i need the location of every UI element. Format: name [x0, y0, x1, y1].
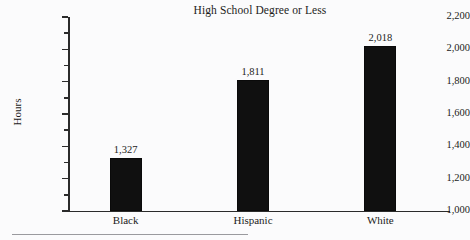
y-axis-line [68, 17, 70, 212]
y-tick-major [62, 49, 68, 51]
bar-hispanic [237, 80, 269, 211]
y-tick-minor [64, 129, 68, 131]
bar-chart-figure: High School Degree or Less Hours 1,0001,… [0, 0, 470, 240]
y-tick-major [62, 146, 68, 148]
y-tick-label: 1,400 [414, 139, 470, 150]
y-tick-major [62, 210, 68, 212]
y-tick-minor [64, 65, 68, 67]
category-label-white: White [340, 214, 420, 226]
y-tick-minor [64, 162, 68, 164]
y-tick-label: 2,000 [414, 42, 470, 53]
bar-value-label: 1,327 [96, 144, 156, 155]
bar-value-label: 1,811 [223, 66, 283, 77]
y-tick-label: 1,800 [414, 75, 470, 86]
y-tick-label: 1,000 [414, 204, 470, 215]
category-label-black: Black [86, 214, 166, 226]
y-tick-minor [64, 194, 68, 196]
y-tick-minor [64, 32, 68, 34]
footer-rule [12, 234, 248, 235]
y-tick-label: 2,200 [414, 10, 470, 21]
category-label-hispanic: Hispanic [213, 214, 293, 226]
chart-title: High School Degree or Less [150, 4, 370, 16]
y-axis-label: Hours [11, 82, 23, 142]
y-tick-minor [64, 97, 68, 99]
y-tick-label: 1,600 [414, 107, 470, 118]
bar-white [364, 46, 396, 211]
y-tick-major [62, 81, 68, 83]
y-tick-major [62, 16, 68, 18]
y-tick-major [62, 113, 68, 115]
y-tick-label: 1,200 [414, 172, 470, 183]
bar-black [110, 158, 142, 211]
y-tick-major [62, 178, 68, 180]
bar-value-label: 2,018 [350, 32, 410, 43]
